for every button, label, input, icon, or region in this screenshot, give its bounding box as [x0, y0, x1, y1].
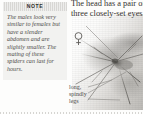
note-body: The males look very similar to females b… — [3, 11, 67, 73]
legs-label-line-1: long, — [69, 84, 87, 91]
legs-label-line-3: legs — [69, 98, 87, 105]
female-gender-symbol-icon — [73, 31, 84, 46]
note-header: NOTE — [3, 2, 67, 11]
page-bottom-margin — [0, 114, 143, 119]
note-sidebar: NOTE The males look very similar to fema… — [3, 2, 67, 80]
note-body-text: The males look very similar to females b… — [7, 14, 63, 73]
body-copy-line-2: three closely-set eyes. — [71, 9, 143, 19]
body-copy-line-1: The head has a pair of — [71, 0, 143, 9]
legs-annotation-label: long, spindly legs — [69, 84, 87, 106]
note-header-label: NOTE — [27, 2, 44, 11]
body-copy-block: The head has a pair of three closely-set… — [71, 0, 143, 18]
book-page: NOTE The males look very similar to fema… — [0, 0, 143, 119]
legs-label-line-2: spindly — [69, 91, 87, 98]
